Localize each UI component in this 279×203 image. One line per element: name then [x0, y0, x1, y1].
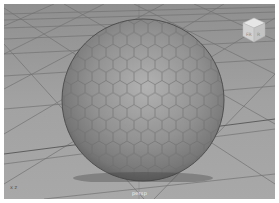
viewcube-icon: FR R — [242, 17, 266, 43]
viewcube[interactable]: FR R — [242, 17, 266, 43]
viewcube-right-label: R — [257, 32, 260, 37]
sphere-mesh — [61, 18, 225, 182]
3d-viewport[interactable]: FR R x z persp — [4, 4, 275, 199]
hexagon-sphere[interactable] — [61, 18, 225, 182]
camera-name-label: persp — [4, 190, 275, 196]
viewcube-front-label: FR — [246, 32, 252, 37]
